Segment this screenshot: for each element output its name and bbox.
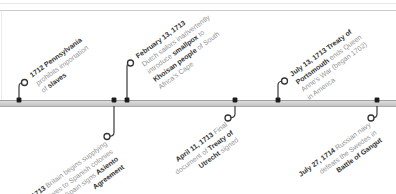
event-ring-icon[interactable] [22,80,28,86]
event-ring-icon[interactable] [104,134,110,140]
event-marker[interactable] [233,97,238,102]
event-marker[interactable] [125,97,130,102]
event-ring-icon[interactable] [225,115,231,121]
timeline-canvas: 1712 Pennsylvaniaprohibits importationof… [0,0,396,194]
event-ring-icon[interactable] [368,115,374,121]
event-marker[interactable] [17,97,22,102]
event-ring-icon[interactable] [282,78,288,84]
leader-line [127,63,130,100]
leader-line [108,106,114,137]
event-marker[interactable] [112,97,117,102]
event-marker[interactable] [375,97,380,102]
event-marker[interactable] [276,97,281,102]
event-ring-icon[interactable] [128,60,134,66]
